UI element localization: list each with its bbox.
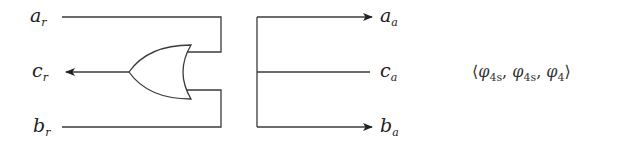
- right-block: [257, 17, 372, 127]
- label-a-r: ar: [30, 4, 47, 29]
- label-a-a: aa: [380, 4, 398, 29]
- label-c-a: ca: [380, 59, 397, 84]
- label-b-r: br: [33, 114, 51, 139]
- left-block: [62, 17, 221, 127]
- phase-tuple: ⟨φ4s, φ4s, φ4⟩: [472, 62, 571, 84]
- label-b-a: ba: [380, 114, 399, 139]
- wire-a-r: [62, 17, 221, 52]
- wire-b-r: [62, 90, 221, 127]
- or-gate-icon: [129, 45, 191, 99]
- label-c-r: cr: [32, 59, 49, 84]
- circuit-diagram: ar cr br aa ca ba ⟨φ4s, φ4s, φ4⟩: [0, 0, 631, 143]
